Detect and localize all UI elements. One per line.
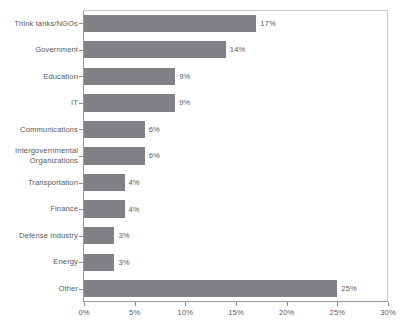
bar-row: Transportation4% [0,169,416,196]
bar-container: 6% [84,147,160,164]
x-tick-label: 20% [279,308,295,317]
x-tick-label: 30% [380,308,396,317]
bar [84,41,226,58]
category-label: Education [43,63,78,90]
bar-container: 3% [84,254,130,271]
x-tick-mark [388,302,389,306]
bar [84,227,114,244]
x-tick-mark [236,302,237,306]
bar [84,68,175,85]
x-tick-label: 0% [78,308,89,317]
bar-row: IT9% [0,90,416,117]
bar [84,174,125,191]
bar [84,280,337,297]
bar-value-label: 6% [149,151,160,160]
category-label: Finance [50,196,78,223]
bar-row: Think tanks/NGOs17% [0,10,416,37]
bar-container: 9% [84,68,190,85]
bar-container: 14% [84,41,245,58]
x-tick-mark [135,302,136,306]
bar-container: 4% [84,174,140,191]
category-label: Energy [53,249,78,276]
bar-container: 6% [84,121,160,138]
x-tick-label: 25% [330,308,346,317]
category-label: Communications [20,116,78,143]
bar-value-label: 4% [129,178,140,187]
bar-row: Intergovernmental Organizations6% [0,143,416,170]
x-tick-label: 15% [228,308,244,317]
bar-value-label: 9% [179,72,190,81]
bar-container: 25% [84,280,357,297]
x-tick-label: 10% [178,308,194,317]
category-label: Transportation [28,169,78,196]
bar-value-label: 3% [118,258,129,267]
bar-value-label: 6% [149,125,160,134]
bar-row: Other25% [0,275,416,302]
bar-row: Finance4% [0,196,416,223]
category-label: Other [59,275,79,302]
bar-value-label: 9% [179,98,190,107]
bar-value-label: 3% [118,231,129,240]
bar-value-label: 14% [230,45,246,54]
bar-container: 3% [84,227,130,244]
x-tick-mark [185,302,186,306]
bar-value-label: 17% [260,19,276,28]
bar [84,147,145,164]
bar [84,121,145,138]
bar-container: 17% [84,15,276,32]
category-label: Defense Industry [19,222,78,249]
bar-container: 4% [84,200,140,217]
bar [84,15,256,32]
x-tick-label: 5% [129,308,140,317]
x-tick-mark [287,302,288,306]
x-axis: 0%5%10%15%20%25%30% [0,302,416,326]
bar-row: Energy3% [0,249,416,276]
bar [84,200,125,217]
category-label: Intergovernmental Organizations [15,143,78,170]
category-label: Think tanks/NGOs [14,10,78,37]
bar-row: Communications6% [0,116,416,143]
bar-row: Government14% [0,37,416,64]
x-tick-mark [84,302,85,306]
category-label: Government [35,37,78,64]
bar-value-label: 25% [341,284,357,293]
bar-value-label: 4% [129,205,140,214]
bar [84,94,175,111]
category-label: IT [71,90,78,117]
bar-chart: Think tanks/NGOs17%Government14%Educatio… [0,0,416,326]
x-tick-mark [337,302,338,306]
bar-row: Education9% [0,63,416,90]
bar-row: Defense Industry3% [0,222,416,249]
bar [84,254,114,271]
bar-container: 9% [84,94,190,111]
